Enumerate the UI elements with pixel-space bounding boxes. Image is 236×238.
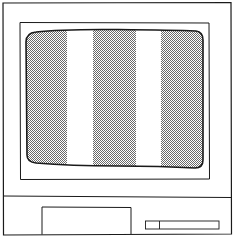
stripe-gray-3 <box>161 25 206 175</box>
disk-slot <box>146 221 220 229</box>
stripe-gray-2 <box>93 25 136 175</box>
stripe-white-1 <box>67 25 93 175</box>
crt-screen <box>20 25 206 175</box>
monitor-illustration <box>0 0 236 238</box>
stripe-white-2 <box>136 25 161 175</box>
